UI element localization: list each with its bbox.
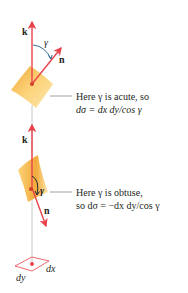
lower-caption: Here γ is obtuse, so dσ = −dx dy/cos γ [76, 186, 160, 212]
lower-base-point [29, 187, 33, 191]
upper-k-label: k [22, 26, 28, 37]
lower-k-label: k [22, 134, 28, 145]
lower-caption-line2: so dσ = −dx dy/cos γ [76, 199, 160, 212]
upper-n-label: n [59, 54, 65, 65]
upper-caption-line1: Here γ is acute, so [76, 90, 149, 103]
base-point [30, 262, 34, 266]
upper-gamma-label: γ [44, 37, 48, 48]
upper-base-point [30, 82, 34, 86]
surface-element-diagram [0, 0, 188, 293]
dy-label: dy [16, 272, 25, 283]
lower-caption-line1: Here γ is obtuse, [76, 186, 160, 199]
lower-n-label: n [44, 205, 50, 216]
upper-caption: Here γ is acute, so dσ = dx dy/cos γ [76, 90, 149, 116]
dx-label: dx [46, 263, 55, 274]
upper-caption-line2: dσ = dx dy/cos γ [76, 103, 149, 116]
upper-gamma-arc [33, 45, 51, 59]
lower-gamma-label: γ [40, 185, 44, 196]
